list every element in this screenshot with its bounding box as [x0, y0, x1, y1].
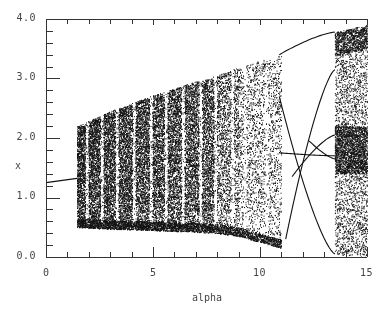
x-tick-label: 15 [360, 267, 373, 278]
x-tick-label: 10 [253, 267, 266, 278]
y-tick-label: 3.0 [6, 71, 36, 82]
y-tick-label: 0.0 [6, 250, 36, 261]
y-axis-title: x [15, 160, 21, 171]
y-tick-label: 4.0 [6, 12, 36, 23]
x-tick-label: 5 [150, 267, 157, 278]
x-axis-title: alpha [192, 292, 222, 303]
x-tick-label: 0 [43, 267, 50, 278]
y-tick-label: 1.0 [6, 190, 36, 201]
bifurcation-plot [0, 0, 386, 315]
y-tick-label: 2.0 [6, 131, 36, 142]
